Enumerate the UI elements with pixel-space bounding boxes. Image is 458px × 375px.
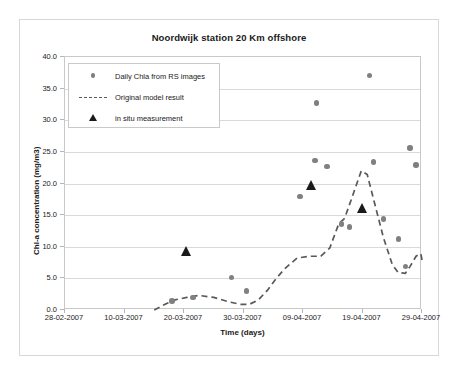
y-tick-mark [60,119,64,120]
x-tick-label: 29-04-2007 [402,313,440,322]
y-tick-label: 5.0 [20,273,57,282]
daily-chla-marker [190,295,195,300]
in-situ-marker [306,180,316,190]
in-situ-marker [181,246,191,256]
y-tick-mark [60,88,64,89]
legend-item-daily-chla: Daily Chla from RS images [69,65,219,86]
chart-figure: Noordwijk station 20 Km offshore 0.05.01… [19,19,439,356]
legend-label: Original model result [115,92,184,101]
y-tick-label: 30.0 [20,115,57,124]
legend-label: Daily Chla from RS images [115,71,205,80]
legend-item-model-result: Original model result [69,86,219,107]
y-axis-title: Chl-a concentration (mg/m3) [32,147,41,255]
chart-legend: Daily Chla from RS images Original model… [68,63,220,128]
legend-label: in situ measurement [115,113,183,122]
x-tick-label: 30-03-2007 [223,313,261,322]
y-tick-label: 35.0 [20,83,57,92]
daily-chla-marker [347,224,352,229]
model-result-line [154,171,422,310]
x-tick-label: 28-02-2007 [45,313,83,322]
x-tick-label: 19-04-2007 [342,313,380,322]
y-tick-mark [60,277,64,278]
daily-chla-marker [396,236,401,241]
daily-chla-marker [413,162,418,167]
daily-chla-marker [324,164,329,169]
chart-title: Noordwijk station 20 Km offshore [20,32,438,43]
x-tick-label: 09-04-2007 [283,313,321,322]
in-situ-marker [357,203,367,213]
daily-chla-marker [244,288,249,293]
daily-chla-marker [312,158,317,163]
legend-item-in-situ: in situ measurement [69,107,219,128]
y-tick-mark [60,183,64,184]
triangle-marker-icon [79,112,107,124]
y-tick-mark [60,151,64,152]
y-tick-mark [60,214,64,215]
x-axis-title: Time (days) [64,328,421,337]
daily-chla-marker [381,216,386,221]
daily-chla-marker [371,159,376,164]
daily-chla-marker [407,145,412,150]
daily-chla-marker [169,298,174,303]
x-tick-label: 20-03-2007 [164,313,202,322]
y-tick-mark [60,246,64,247]
y-tick-label: 40.0 [20,52,57,61]
daily-chla-marker [403,264,408,269]
y-tick-mark [60,56,64,57]
x-tick-label: 10-03-2007 [104,313,142,322]
dashed-line-icon [79,91,107,103]
daily-chla-marker [339,221,344,226]
circle-marker-icon [79,70,107,82]
